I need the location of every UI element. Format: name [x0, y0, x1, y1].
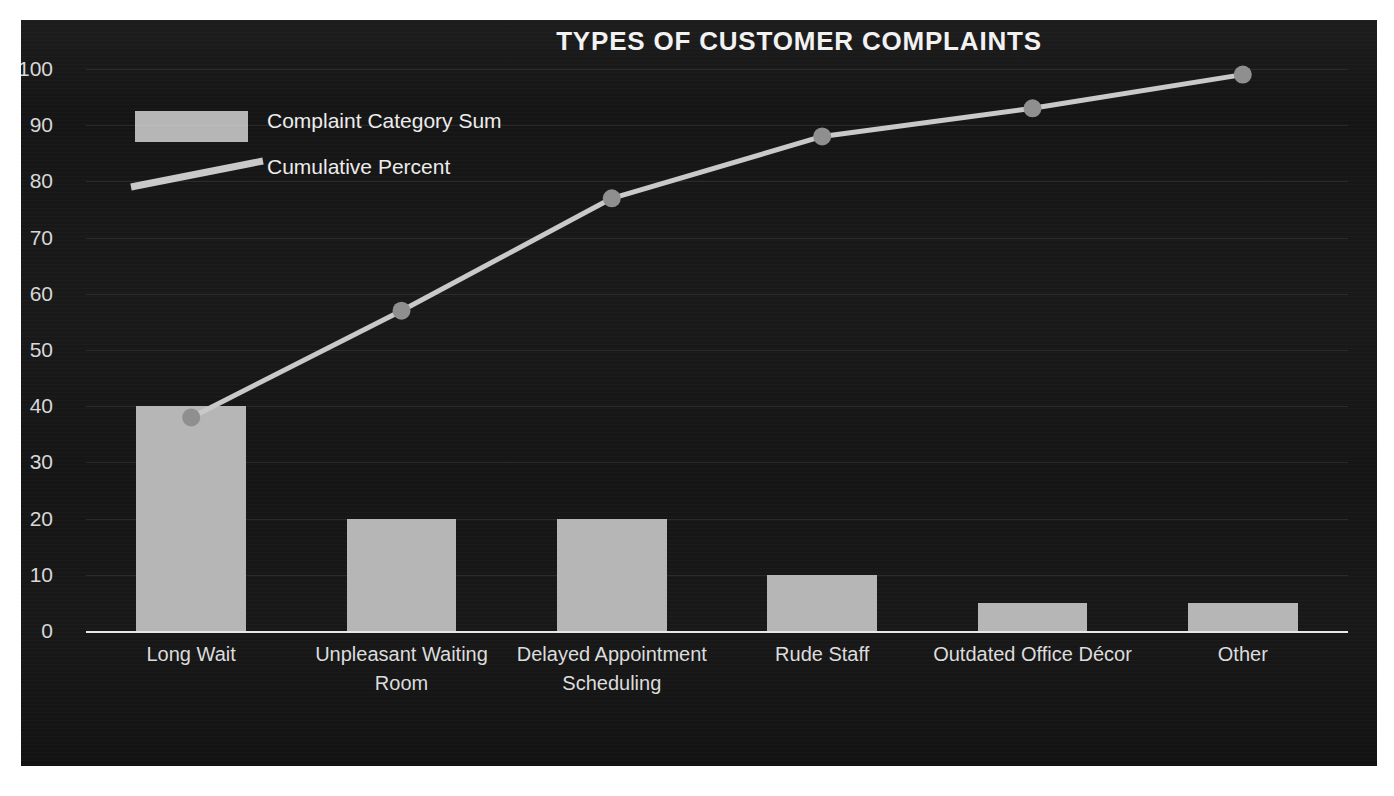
y-tick-label-0: 0 [21, 619, 53, 643]
x-axis-label-2: Delayed Appointment Scheduling [507, 640, 717, 698]
cumulative-marker-0[interactable] [182, 408, 200, 426]
x-axis-label-0: Long Wait [86, 640, 296, 669]
y-tick-label-80: 80 [21, 169, 53, 193]
cumulative-marker-4[interactable] [1024, 99, 1042, 117]
y-tick-label-70: 70 [21, 226, 53, 250]
x-axis-label-3: Rude Staff [717, 640, 927, 669]
x-axis-label-4: Outdated Office Décor [927, 640, 1137, 669]
y-tick-label-90: 90 [21, 113, 53, 137]
chart-panel: TYPES OF CUSTOMER COMPLAINTS Complaint C… [21, 20, 1377, 766]
y-tick-label-100: 100 [21, 57, 53, 81]
cumulative-percent-line-layer [86, 69, 1348, 631]
cumulative-marker-2[interactable] [603, 189, 621, 207]
x-axis-line [86, 631, 1348, 633]
page-root: TYPES OF CUSTOMER COMPLAINTS Complaint C… [0, 0, 1394, 796]
cumulative-marker-1[interactable] [393, 302, 411, 320]
cumulative-marker-5[interactable] [1234, 66, 1252, 84]
chart-title: TYPES OF CUSTOMER COMPLAINTS [21, 26, 1377, 57]
y-tick-label-60: 60 [21, 282, 53, 306]
cumulative-percent-markers [182, 66, 1252, 427]
y-tick-label-50: 50 [21, 338, 53, 362]
cumulative-marker-3[interactable] [813, 127, 831, 145]
y-tick-label-30: 30 [21, 450, 53, 474]
y-tick-label-40: 40 [21, 394, 53, 418]
x-axis-category-labels: Long WaitUnpleasant Waiting RoomDelayed … [86, 640, 1348, 760]
y-tick-label-10: 10 [21, 563, 53, 587]
x-axis-label-1: Unpleasant Waiting Room [296, 640, 506, 698]
x-axis-label-5: Other [1138, 640, 1348, 669]
y-tick-label-20: 20 [21, 507, 53, 531]
plot-area: 1009080706050403020100 [86, 69, 1348, 631]
cumulative-percent-line [191, 75, 1243, 418]
